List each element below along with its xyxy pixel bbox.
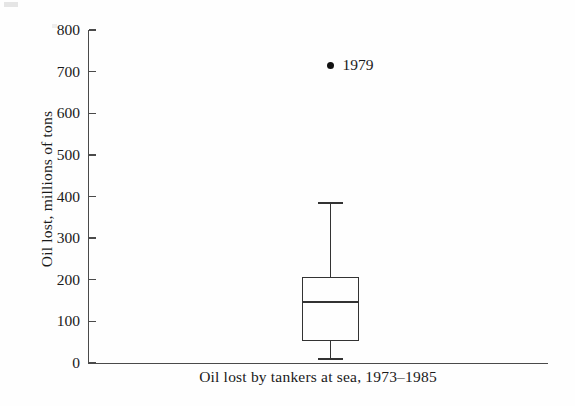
scan-artifact-mark xyxy=(4,2,18,7)
y-tick-mark xyxy=(89,154,96,155)
boxplot-median-line xyxy=(302,301,359,303)
boxplot-lower-whisker-cap xyxy=(318,358,343,360)
boxplot-upper-whisker xyxy=(330,203,332,277)
y-tick-mark xyxy=(89,113,96,114)
y-tick-label: 500 xyxy=(34,147,80,163)
boxplot-box xyxy=(302,277,359,341)
y-tick-label: 300 xyxy=(34,230,80,246)
boxplot-outlier-point xyxy=(327,62,334,69)
boxplot-lower-whisker xyxy=(330,341,332,359)
y-tick-mark xyxy=(89,237,96,238)
boxplot-upper-whisker-cap xyxy=(318,202,343,204)
x-axis-line xyxy=(88,363,548,364)
y-tick-label: 700 xyxy=(34,64,80,80)
y-tick-mark xyxy=(89,71,96,72)
boxplot-outlier-label: 1979 xyxy=(343,57,374,73)
y-tick-mark xyxy=(89,29,96,30)
y-tick-mark xyxy=(89,362,96,363)
y-tick-mark xyxy=(89,279,96,280)
y-tick-label: 100 xyxy=(34,313,80,329)
y-tick-mark xyxy=(89,196,96,197)
y-tick-label: 800 xyxy=(34,22,80,38)
y-tick-label: 600 xyxy=(34,105,80,121)
y-tick-label: 400 xyxy=(34,189,80,205)
y-tick-label: 0 xyxy=(34,355,80,371)
y-tick-label: 200 xyxy=(34,272,80,288)
y-tick-mark xyxy=(89,321,96,322)
x-axis-caption: Oil lost by tankers at sea, 1973–1985 xyxy=(88,368,548,386)
figure-canvas: Oil lost, millions of tons 8007006005004… xyxy=(0,0,575,406)
